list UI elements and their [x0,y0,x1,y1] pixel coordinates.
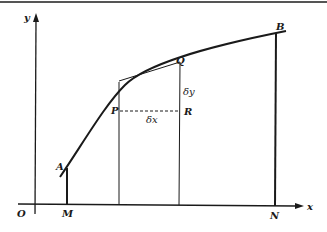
delta-x-label: δx [146,114,158,125]
ordinate-bn [275,33,276,206]
x-axis-label: x [306,201,314,212]
y-axis-arrow-icon [33,13,39,22]
point-p-label: P [110,105,119,116]
x-axis-arrow-icon [295,203,304,209]
point-m-label: M [61,208,74,219]
point-r-label: R [183,106,192,117]
point-q-label: Q [176,55,185,66]
ordinate-q [179,62,180,205]
origin-label: O [17,208,26,219]
point-b-label: B [275,21,284,32]
y-axis [33,13,39,214]
chord-pq [119,62,180,81]
point-a-label: A [55,161,64,172]
calculus-diagram: y x O A B P Q R M N δy δx [0,0,327,232]
curve [60,31,286,177]
point-n-label: N [269,210,280,221]
x-axis [18,203,304,209]
y-axis-label: y [23,12,31,23]
delta-y-label: δy [183,86,195,97]
